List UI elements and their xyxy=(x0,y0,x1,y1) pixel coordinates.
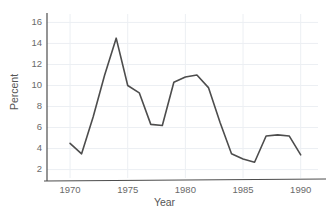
y-tick-label: 10 xyxy=(20,79,42,90)
y-tick-label: 4 xyxy=(20,142,42,153)
line-chart: Percent Year 246810121416197019751980198… xyxy=(0,0,329,215)
x-tick-label: 1975 xyxy=(110,184,146,195)
y-axis-title: Percent xyxy=(8,62,20,122)
x-tick-label: 1980 xyxy=(167,184,203,195)
plot-area xyxy=(0,0,329,215)
x-axis-line xyxy=(44,179,326,181)
x-tick-label: 1990 xyxy=(283,184,319,195)
y-tick-label: 12 xyxy=(20,58,42,69)
y-tick-label: 8 xyxy=(20,100,42,111)
x-axis-title: Year xyxy=(0,196,329,208)
y-tick-label: 16 xyxy=(20,16,42,27)
x-tick-label: 1985 xyxy=(225,184,261,195)
y-tick-label: 14 xyxy=(20,37,42,48)
x-tick-label: 1970 xyxy=(52,184,88,195)
y-tick-label: 6 xyxy=(20,121,42,132)
y-tick-label: 2 xyxy=(20,163,42,174)
